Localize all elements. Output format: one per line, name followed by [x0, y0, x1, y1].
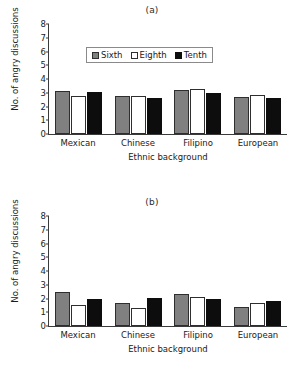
- bar: [250, 95, 265, 134]
- legend-item: Sixth: [92, 50, 123, 60]
- bar: [87, 92, 102, 134]
- legend-swatch-icon: [92, 52, 99, 59]
- bar: [55, 91, 70, 134]
- x-axis-tick-label: Filipino: [168, 330, 228, 340]
- bar: [190, 297, 205, 326]
- bar-group: [168, 24, 228, 134]
- bar: [115, 96, 130, 135]
- legend-label: Tenth: [184, 50, 207, 60]
- bar-group: [49, 216, 109, 326]
- bar: [87, 299, 102, 326]
- y-axis-title-b: No. of angry discussions: [10, 192, 20, 310]
- panel-a-plot: No. of angry discussions 876543210 Mexic…: [0, 18, 304, 178]
- bar: [131, 308, 146, 326]
- y-axis-title-a: No. of angry discussions: [10, 0, 20, 118]
- bar: [266, 98, 281, 134]
- legend-item: Tenth: [175, 50, 207, 60]
- legend-label: Eighth: [140, 50, 167, 60]
- bar-group: [109, 216, 169, 326]
- chart-legend: SixthEighthTenth: [86, 47, 213, 63]
- x-axis-tick-label: European: [228, 138, 288, 148]
- legend-item: Eighth: [131, 50, 167, 60]
- x-axis-tick-label: Chinese: [108, 330, 168, 340]
- bar: [250, 303, 265, 326]
- bar-group: [109, 24, 169, 134]
- plot-area-b: 876543210: [48, 216, 287, 327]
- bar-groups-b: [49, 216, 287, 326]
- legend-label: Sixth: [101, 50, 123, 60]
- bar: [266, 301, 281, 326]
- bar: [174, 294, 189, 326]
- bar: [206, 299, 221, 326]
- x-axis-tick-label: Mexican: [48, 330, 108, 340]
- bar-group: [168, 216, 228, 326]
- bar: [71, 305, 86, 326]
- x-axis-tick-label: Chinese: [108, 138, 168, 148]
- legend-swatch-icon: [175, 52, 182, 59]
- bar: [55, 292, 70, 326]
- bar: [147, 298, 162, 326]
- x-axis-title-b: Ethnic background: [48, 344, 288, 354]
- x-axis-tick-label: Mexican: [48, 138, 108, 148]
- panel-a-label: (a): [0, 0, 304, 18]
- bar: [206, 93, 221, 134]
- bar-group: [49, 24, 109, 134]
- bar: [131, 96, 146, 134]
- bar: [234, 97, 249, 134]
- x-axis-labels-a: MexicanChineseFilipinoEuropean: [48, 138, 288, 148]
- bar: [115, 303, 130, 326]
- bar: [147, 98, 162, 134]
- bar-groups-a: [49, 24, 287, 134]
- bar-group: [228, 216, 288, 326]
- bar: [71, 96, 86, 134]
- bar: [190, 89, 205, 134]
- panel-b-label: (b): [0, 192, 304, 210]
- bar: [174, 90, 189, 134]
- x-axis-tick-label: European: [228, 330, 288, 340]
- x-axis-labels-b: MexicanChineseFilipinoEuropean: [48, 330, 288, 340]
- x-axis-tick-label: Filipino: [168, 138, 228, 148]
- legend-swatch-icon: [131, 52, 138, 59]
- panel-a: (a) No. of angry discussions 876543210 M…: [0, 0, 304, 192]
- bar: [234, 307, 249, 326]
- panel-b: (b) No. of angry discussions 876543210 M…: [0, 192, 304, 384]
- x-axis-title-a: Ethnic background: [48, 152, 288, 162]
- bar-group: [228, 24, 288, 134]
- figure-container: (a) No. of angry discussions 876543210 M…: [0, 0, 304, 385]
- panel-b-plot: No. of angry discussions 876543210 Mexic…: [0, 210, 304, 370]
- plot-area-a: 876543210: [48, 24, 287, 135]
